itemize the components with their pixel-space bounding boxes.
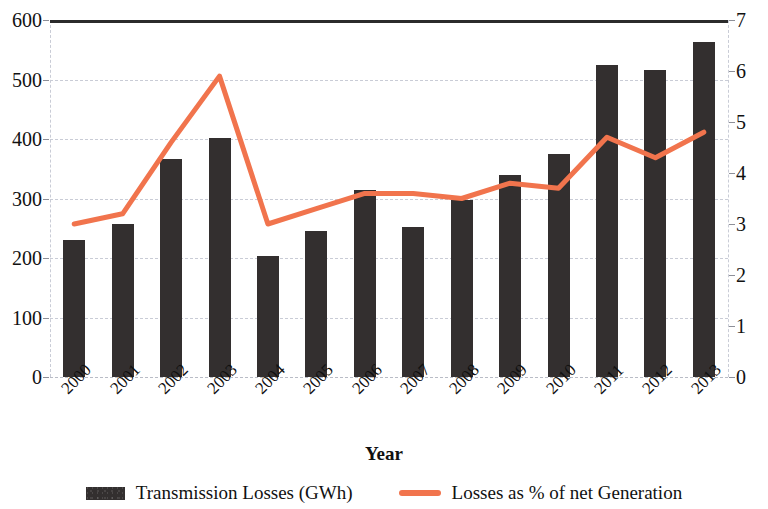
left-axis-tick-mark xyxy=(43,258,49,259)
right-axis-tick-mark xyxy=(729,122,735,123)
bar-swatch-icon xyxy=(86,487,125,500)
right-axis-line xyxy=(728,20,729,377)
line-path xyxy=(50,20,728,377)
left-axis-tick-label: 200 xyxy=(12,248,42,268)
x-axis-title: Year xyxy=(0,443,768,465)
right-axis-tick-label: 1 xyxy=(736,316,746,336)
line-series-losses-percent xyxy=(50,20,728,377)
right-axis-tick-label: 7 xyxy=(736,10,746,30)
right-axis-tick-mark xyxy=(729,377,735,378)
right-axis-tick-mark xyxy=(729,275,735,276)
legend-label-losses-percent: Losses as % of net Generation xyxy=(452,483,683,503)
left-axis-tick-label: 0 xyxy=(32,367,42,387)
legend-item-transmission-losses: Transmission Losses (GWh) xyxy=(86,483,353,503)
right-axis-tick-label: 2 xyxy=(736,265,746,285)
left-axis-tick-label: 600 xyxy=(12,10,42,30)
left-axis-tick-label: 500 xyxy=(12,70,42,90)
left-axis-tick-label: 100 xyxy=(12,308,42,328)
right-axis-tick-label: 6 xyxy=(736,61,746,81)
right-axis-tick-mark xyxy=(729,224,735,225)
right-axis: 01234567 xyxy=(736,0,768,509)
left-axis-tick-mark xyxy=(43,199,49,200)
chart-legend: Transmission Losses (GWh) Losses as % of… xyxy=(0,483,768,503)
right-axis-tick-label: 5 xyxy=(736,112,746,132)
left-axis-tick-label: 400 xyxy=(12,129,42,149)
left-axis-tick-mark xyxy=(43,139,49,140)
left-axis-tick-mark xyxy=(43,20,49,21)
right-axis-tick-mark xyxy=(729,20,735,21)
right-axis-tick-mark xyxy=(729,173,735,174)
legend-label-transmission-losses: Transmission Losses (GWh) xyxy=(136,483,353,503)
right-axis-tick-label: 0 xyxy=(736,367,746,387)
line-swatch-icon xyxy=(399,490,441,496)
chart-figure: 0100200300400500600 01234567 20002001200… xyxy=(0,0,768,509)
left-axis: 0100200300400500600 xyxy=(0,0,42,509)
right-axis-tick-mark xyxy=(729,326,735,327)
right-axis-tick-label: 3 xyxy=(736,214,746,234)
legend-item-losses-percent: Losses as % of net Generation xyxy=(399,483,683,503)
right-axis-tick-mark xyxy=(729,71,735,72)
left-axis-tick-label: 300 xyxy=(12,189,42,209)
x-axis-tick-labels: 2000200120022003200420052006200720082009… xyxy=(50,377,728,437)
left-axis-tick-mark xyxy=(43,318,49,319)
left-axis-tick-mark xyxy=(43,377,49,378)
left-axis-tick-mark xyxy=(43,80,49,81)
right-axis-tick-label: 4 xyxy=(736,163,746,183)
